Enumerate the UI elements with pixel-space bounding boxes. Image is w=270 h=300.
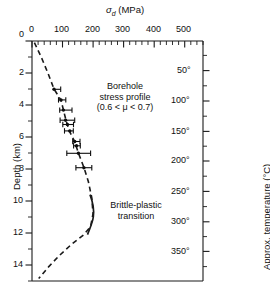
borehole-annotation: Borehole stress profile (0.6 < μ < 0.7) (83, 81, 167, 113)
y-tick-label-4: 4 (19, 100, 24, 109)
x-tick-label-0: 0 (29, 25, 34, 34)
transition-annotation-line-2: transition (97, 211, 175, 222)
x-tick-label-300: 300 (115, 25, 130, 34)
data-point (65, 128, 74, 133)
y-tick-label-6: 6 (19, 132, 24, 141)
right-tick-label-150: 150° (171, 127, 190, 136)
borehole-annotation-line-1: Borehole (83, 81, 167, 92)
y-tick-label-2: 2 (19, 68, 24, 77)
data-point (52, 87, 60, 92)
borehole-annotation-line-2: stress profile (83, 92, 167, 103)
transition-annotation: Brittle-plastic transition (97, 200, 175, 221)
x-tick-label-400: 400 (146, 25, 161, 34)
stress-depth-chart: σd (MPa) Depth (km) Approx. temperature … (0, 0, 270, 300)
right-tick-label-50: 50° (177, 66, 191, 75)
y-tick-label-12: 12 (13, 228, 23, 237)
right-tick-label-250: 250° (171, 187, 190, 196)
y-tick-label-0: 0 (19, 30, 24, 39)
x-tick-label-100: 100 (54, 25, 69, 34)
borehole-annotation-line-3: (0.6 < μ < 0.7) (83, 102, 167, 113)
right-tick-label-200: 200° (171, 156, 190, 165)
y-tick-label-14: 14 (13, 260, 23, 269)
y-tick-label-8: 8 (19, 164, 24, 173)
right-tick-label-350: 350° (171, 247, 190, 256)
x-tick-label-200: 200 (85, 25, 100, 34)
transition-annotation-line-1: Brittle-plastic (97, 200, 175, 211)
y-tick-label-10: 10 (13, 196, 23, 205)
right-axis-major-ticks (203, 71, 210, 252)
x-tick-label-500: 500 (176, 25, 191, 34)
plot-canvas (0, 0, 270, 300)
strength-envelope-curve (34, 43, 93, 279)
data-point (60, 107, 72, 112)
right-tick-label-100: 100° (171, 96, 190, 105)
x-axis-major-ticks (32, 41, 185, 48)
